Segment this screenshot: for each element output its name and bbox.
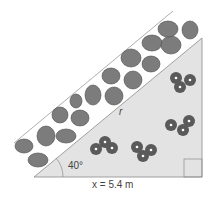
hypotenuse-label: r bbox=[119, 106, 122, 117]
garden-diagram bbox=[0, 0, 213, 198]
angle-label: 40° bbox=[68, 160, 83, 171]
base-label: x = 5.4 m bbox=[92, 179, 133, 190]
